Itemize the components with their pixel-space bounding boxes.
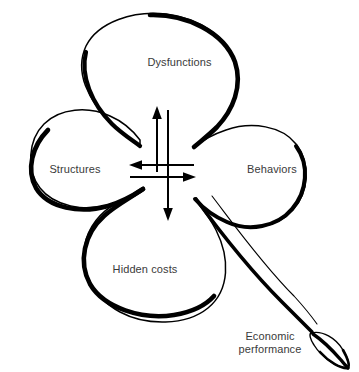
arrow-up <box>152 106 162 172</box>
outcome-label-economic-performance: Economicperformance <box>226 330 314 356</box>
stem-thin-edge <box>212 196 317 324</box>
lobe-label-structures: Structures <box>10 163 140 176</box>
lobe-label-behaviors: Behaviors <box>212 163 332 176</box>
accent-right-lobe <box>195 146 305 227</box>
outcome-label-line-1: Economic <box>245 330 294 342</box>
lobe-label-dysfunctions: Dysfunctions <box>0 56 359 69</box>
lobe-label-hidden-costs: Hidden costs <box>0 263 290 276</box>
outcome-label-line-2: performance <box>239 343 302 355</box>
accent-top-lobe-right <box>150 15 238 147</box>
diagram-canvas: Dysfunctions Structures Behaviors Hidden… <box>0 0 359 372</box>
